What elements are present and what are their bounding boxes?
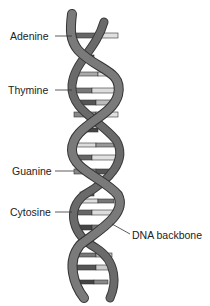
label-cytosine: Cytosine (10, 206, 51, 218)
backbone-leader (112, 224, 130, 234)
label-guanine: Guanine (12, 165, 52, 177)
label-dna-backbone: DNA backbone (132, 229, 202, 241)
label-thymine: Thymine (8, 84, 48, 96)
dna-helix-diagram (0, 0, 210, 306)
label-adenine: Adenine (10, 30, 49, 42)
